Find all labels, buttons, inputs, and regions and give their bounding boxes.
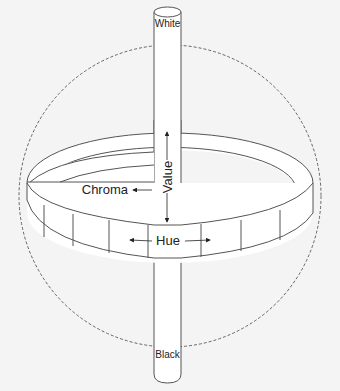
munsell-diagram: White Black Value Chroma Hue [0, 0, 340, 391]
black-label: Black [155, 349, 180, 360]
cylinder-bottom [154, 374, 181, 383]
cylinder-top [154, 7, 181, 17]
value-label: Value [160, 161, 175, 193]
white-label: White [155, 18, 181, 29]
hue-label: Hue [156, 233, 180, 248]
chroma-label: Chroma [82, 182, 129, 197]
